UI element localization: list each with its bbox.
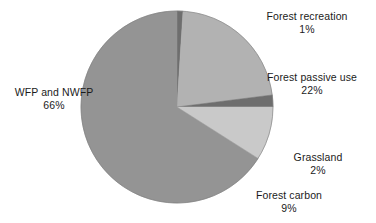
pie-label-forest-passive-use-value: 22% [248,84,376,97]
pie-label-forest-recreation-value: 1% [243,23,371,36]
pie-label-forest-recreation-name: Forest recreation [243,10,371,23]
pie-chart-figure: Forest recreation 1% Forest passive use … [0,0,376,223]
pie-label-forest-recreation: Forest recreation 1% [243,10,371,36]
pie-label-wfp-and-nwfp: WFP and NWFP 66% [2,86,106,112]
pie-slices-group [81,11,273,203]
pie-label-forest-passive-use-name: Forest passive use [248,71,376,84]
pie-label-wfp-and-nwfp-value: 66% [2,99,106,112]
pie-label-wfp-and-nwfp-name: WFP and NWFP [2,86,106,99]
pie-label-forest-carbon-value: 9% [231,202,347,215]
pie-label-grassland-name: Grassland [268,151,368,164]
pie-label-grassland-value: 2% [268,164,368,177]
pie-label-forest-carbon: Forest carbon 9% [231,189,347,215]
pie-label-forest-passive-use: Forest passive use 22% [248,71,376,97]
pie-label-forest-carbon-name: Forest carbon [231,189,347,202]
pie-label-grassland: Grassland 2% [268,151,368,177]
